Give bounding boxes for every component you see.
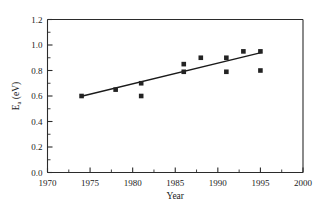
data-point xyxy=(79,94,84,99)
x-tick-label: 1975 xyxy=(81,178,100,188)
data-point-markers xyxy=(79,49,262,98)
x-tick-label: 1990 xyxy=(209,178,228,188)
y-axis-title: Ea (eV) xyxy=(11,82,22,110)
y-tick-label: 0.6 xyxy=(31,91,43,101)
data-point xyxy=(139,81,144,86)
data-point xyxy=(113,87,118,92)
x-tick-label: 1970 xyxy=(39,178,58,188)
figure-container: 1970197519801985199019952000 0.00.20.40.… xyxy=(0,0,325,207)
data-point xyxy=(199,55,204,60)
x-axis-tick-labels: 1970197519801985199019952000 xyxy=(39,178,313,188)
x-tick-label: 1985 xyxy=(166,178,185,188)
x-tick-label: 1980 xyxy=(124,178,143,188)
x-tick-label: 1995 xyxy=(251,178,270,188)
y-tick-label: 0.2 xyxy=(31,142,42,152)
data-point xyxy=(258,68,263,73)
x-axis-title-text: Year xyxy=(166,191,184,201)
axis-frame xyxy=(48,20,304,173)
y-axis-ticks xyxy=(48,20,53,173)
y-tick-label: 0.8 xyxy=(31,66,43,76)
data-point xyxy=(181,62,186,67)
y-tick-label: 1.0 xyxy=(31,40,43,50)
scatter-plot: 1970197519801985199019952000 0.00.20.40.… xyxy=(0,0,325,207)
data-point xyxy=(258,49,263,54)
trend-line xyxy=(82,52,263,96)
data-point xyxy=(181,69,186,74)
x-axis-title: Year xyxy=(166,191,184,201)
y-axis-tick-labels: 0.00.20.40.60.81.01.2 xyxy=(31,15,43,178)
data-point xyxy=(241,49,246,54)
x-axis-ticks xyxy=(48,168,304,173)
data-point xyxy=(224,69,229,74)
y-tick-label: 0.4 xyxy=(31,117,43,127)
y-tick-label: 0.0 xyxy=(31,168,43,178)
y-tick-label: 1.2 xyxy=(31,15,42,25)
data-point xyxy=(139,94,144,99)
y-axis-title-text: Ea (eV) xyxy=(11,82,22,110)
x-tick-label: 2000 xyxy=(294,178,313,188)
data-point xyxy=(224,55,229,60)
